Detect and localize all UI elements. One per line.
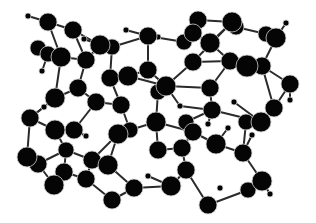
atom: [177, 161, 195, 179]
atom: [206, 134, 226, 154]
atom: [64, 21, 82, 39]
atom: [251, 112, 271, 132]
atom: [44, 175, 64, 195]
small-atom: [217, 185, 223, 191]
atom: [173, 139, 191, 157]
atom: [201, 79, 219, 97]
small-atom: [267, 191, 273, 197]
molecule-diagram: [0, 0, 316, 223]
atom: [200, 33, 220, 53]
atom: [45, 88, 65, 108]
atom: [149, 141, 167, 159]
atom: [90, 35, 110, 55]
small-atom: [177, 103, 183, 109]
atom: [39, 13, 57, 31]
atom: [184, 24, 202, 42]
atom: [112, 96, 130, 114]
atom: [139, 61, 157, 79]
small-atom: [83, 133, 89, 139]
molecule-structure: [0, 0, 316, 223]
small-atom: [145, 173, 151, 179]
small-atom: [283, 20, 289, 26]
atom: [98, 155, 118, 175]
atom: [17, 147, 37, 167]
atom: [236, 55, 258, 77]
small-atom: [41, 104, 47, 110]
atom: [69, 79, 87, 97]
atom: [118, 66, 138, 86]
atom: [139, 27, 157, 45]
atom: [21, 109, 39, 127]
small-atom: [25, 13, 31, 19]
small-atom: [249, 132, 255, 138]
small-atom: [231, 99, 237, 105]
atom: [146, 112, 166, 132]
atom: [203, 101, 221, 119]
atom: [266, 28, 286, 48]
atom: [103, 191, 121, 209]
atom: [77, 51, 95, 69]
atom: [87, 93, 105, 111]
small-atom: [287, 97, 293, 103]
atom: [156, 76, 176, 96]
atom: [101, 69, 119, 87]
atom: [125, 179, 143, 197]
small-atom: [39, 68, 45, 74]
atom: [108, 124, 128, 144]
small-atom: [123, 27, 129, 33]
atom: [199, 196, 217, 214]
atom-layer: [17, 11, 299, 214]
atom: [252, 171, 272, 191]
atom: [281, 75, 299, 93]
atom: [184, 53, 202, 71]
atom: [65, 121, 83, 139]
atom: [45, 120, 65, 140]
small-atom: [225, 125, 231, 131]
atom: [161, 176, 181, 196]
atom: [222, 12, 242, 32]
small-atom: [81, 36, 87, 42]
atom: [77, 170, 95, 188]
small-atom: [205, 121, 211, 127]
atom: [234, 144, 252, 162]
atom: [51, 47, 71, 67]
atom: [58, 142, 74, 158]
atom: [184, 123, 202, 141]
